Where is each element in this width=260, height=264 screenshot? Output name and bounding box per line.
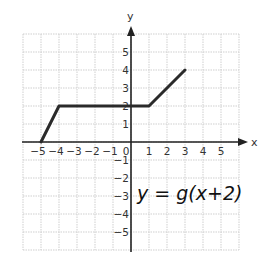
y-tick-label: −5 <box>114 226 129 238</box>
y-tick-label: −3 <box>114 190 129 202</box>
x-tick-label: −3 <box>66 145 81 157</box>
x-axis-arrow-icon <box>238 138 248 146</box>
x-tick-label: −4 <box>48 145 64 157</box>
y-axis-arrow-icon <box>127 26 135 36</box>
x-tick-label: 5 <box>218 145 225 157</box>
x-tick-label: −5 <box>30 145 45 157</box>
x-tick-label: −2 <box>84 145 99 157</box>
axes: x y <box>22 10 258 252</box>
x-tick-label: 1 <box>146 145 153 157</box>
x-tick-label: 4 <box>200 145 207 157</box>
y-tick-label: 5 <box>122 46 129 58</box>
x-tick-label: 2 <box>164 145 171 157</box>
y-tick-label: 4 <box>122 64 129 76</box>
y-tick-label: −2 <box>114 172 129 184</box>
coordinate-plane: x y −5−4−3−2−1012345−5−4−3−2−112345 y = … <box>0 0 260 264</box>
y-tick-label: −1 <box>114 154 129 166</box>
y-tick-label: 1 <box>122 118 129 130</box>
x-tick-label: 3 <box>182 145 189 157</box>
x-axis-label: x <box>251 136 258 149</box>
y-tick-label: 3 <box>122 82 129 94</box>
y-axis-label: y <box>127 10 134 23</box>
equation-annotation: y = g(x+2) <box>136 182 242 204</box>
y-tick-label: −4 <box>114 208 130 220</box>
